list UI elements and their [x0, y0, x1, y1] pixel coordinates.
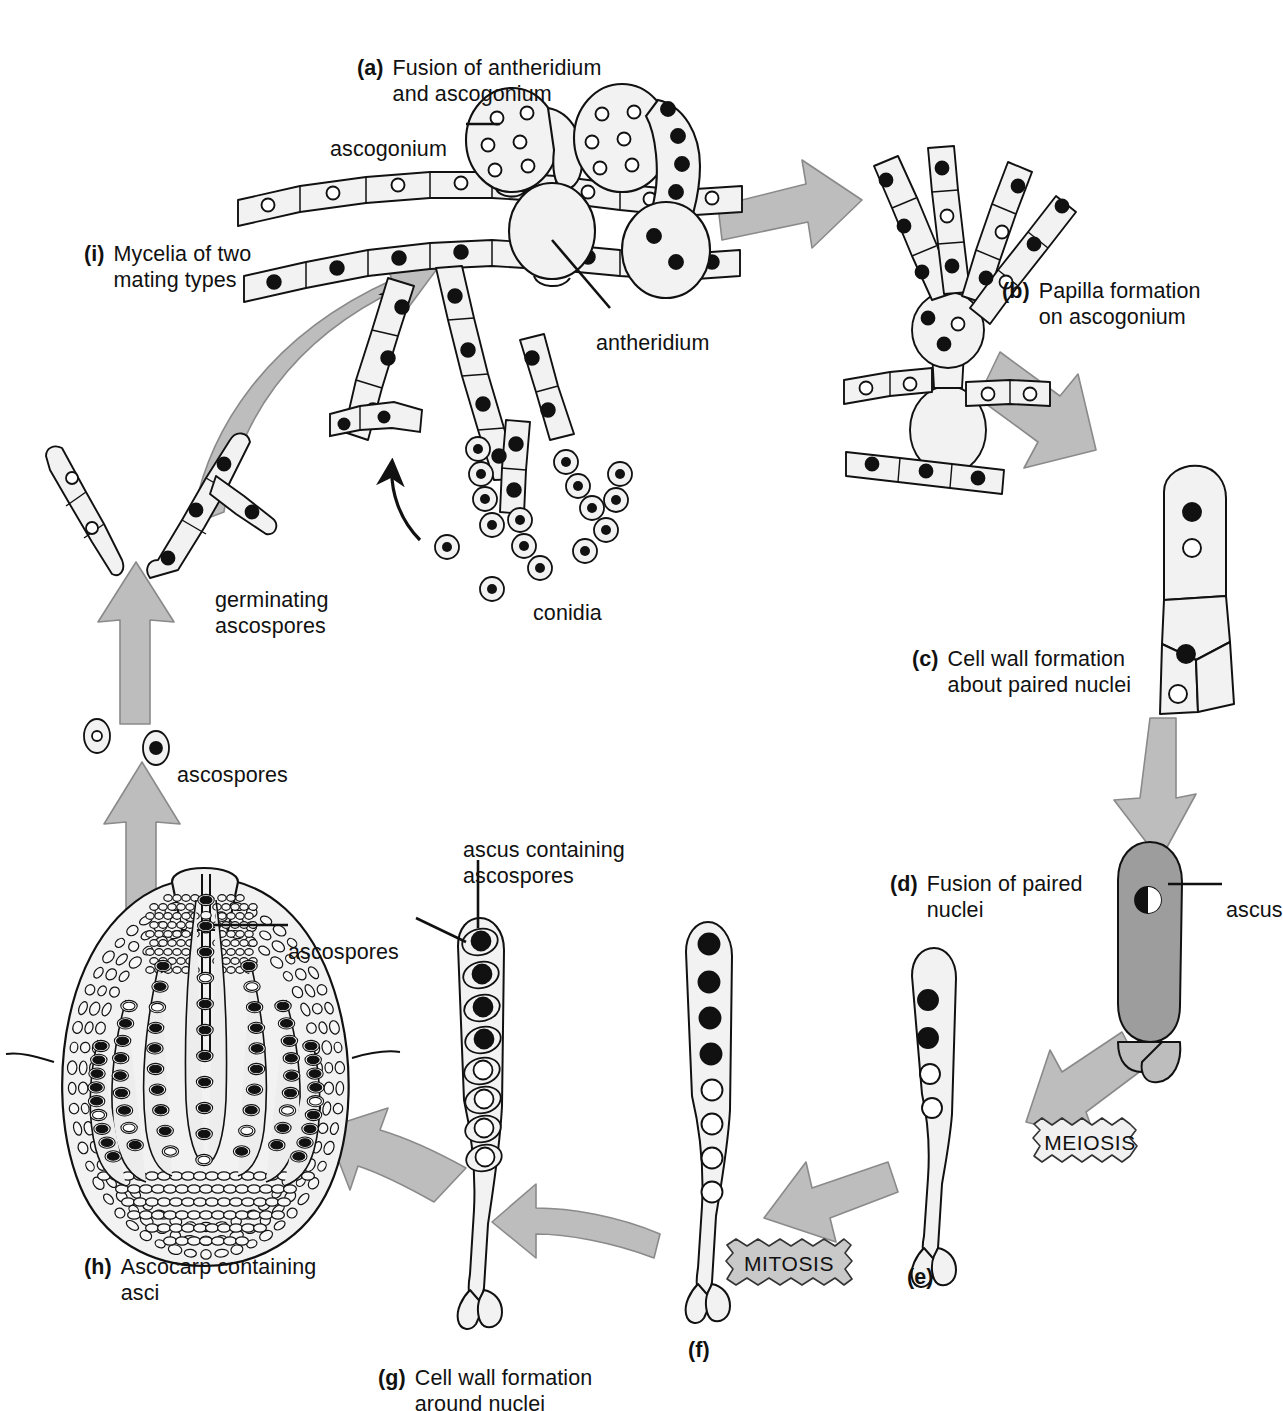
crozier-structure — [1160, 466, 1234, 714]
callout-antheridium: antheridium — [596, 304, 709, 356]
step-d-label: (d)Fusion of paired nuclei — [890, 845, 1083, 949]
step-b-label: (b)Papilla formation on ascogonium — [1002, 252, 1201, 356]
callout-ascospores-free: ascospores — [177, 736, 288, 788]
step-c-text: Cell wall formation about paired nuclei — [948, 646, 1132, 698]
leader-lines — [214, 124, 1222, 942]
antheridium-right — [622, 202, 710, 298]
mitosis-label: MITOSIS — [735, 1252, 843, 1276]
callout-ascospores-ascocarp: ascospores — [288, 913, 399, 965]
step-i-letter: (i) — [84, 241, 105, 293]
step-b-letter: (b) — [1002, 278, 1030, 330]
step-g-label: (g)Cell wall formation around nuclei — [378, 1339, 592, 1411]
step-i-label: (i)Mycelia of two mating types — [84, 215, 251, 319]
ascus-d-nucleus — [1135, 887, 1161, 913]
step-e-label: (e) — [907, 1264, 934, 1290]
callout-ascogonium: ascogonium — [330, 110, 447, 162]
step-d-text: Fusion of paired nuclei — [927, 871, 1083, 923]
callout-ascus: ascus — [1226, 871, 1283, 923]
step-i-text: Mycelia of two mating types — [114, 241, 252, 293]
meiosis-label: MEIOSIS — [1042, 1131, 1138, 1155]
callout-ascus-containing-ascospores: ascus containing ascospores — [463, 811, 625, 889]
step-d-letter: (d) — [890, 871, 918, 923]
step-h-label: (h)Ascocarp containing asci — [84, 1228, 316, 1332]
step-g-text: Cell wall formation around nuclei — [415, 1365, 593, 1411]
step-g-letter: (g) — [378, 1365, 406, 1411]
step-c-label: (c)Cell wall formation about paired nucl… — [912, 620, 1131, 724]
callout-conidia: conidia — [533, 574, 602, 626]
leader-ascospores-g — [416, 918, 466, 942]
step-h-text: Ascocarp containing asci — [121, 1254, 317, 1306]
step-h-letter: (h) — [84, 1254, 112, 1306]
step-c-letter: (c) — [912, 646, 939, 698]
step-f-label: (f) — [688, 1337, 710, 1363]
free-ascospores — [84, 719, 169, 765]
step-b-text: Papilla formation on ascogonium — [1039, 278, 1201, 330]
callout-germinating-ascospores: germinating ascospores — [215, 561, 328, 639]
step-a-text: Fusion of antheridium and ascogonium — [393, 55, 602, 107]
conidium-pair — [330, 402, 422, 436]
step-a-letter: (a) — [357, 55, 384, 107]
ascus-fused-nuclei — [1118, 842, 1182, 1082]
